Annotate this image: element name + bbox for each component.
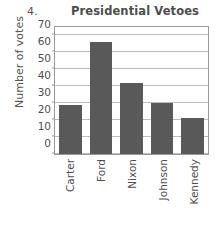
bar-series (55, 27, 208, 154)
plot-inner: 010203040506070 (55, 27, 208, 154)
y-tick-label: 50 (38, 53, 51, 64)
x-tick-slot: Carter (54, 155, 85, 227)
x-tick-label: Carter (64, 159, 75, 192)
y-tick-label: 70 (38, 19, 51, 30)
y-tick-label: 10 (38, 121, 51, 132)
y-tick-label: 60 (38, 36, 51, 47)
bar (181, 118, 204, 154)
bar (151, 103, 174, 154)
bar (59, 105, 82, 154)
y-tick-label: 20 (38, 104, 51, 115)
y-tick-label: 0 (44, 138, 51, 149)
x-tick-label: Kennedy (188, 159, 199, 204)
x-tick-label: Ford (95, 159, 106, 182)
x-axis-tick-labels: CarterFordNixonJohnsonKennedy (54, 155, 209, 227)
bar-slot (86, 27, 117, 154)
problem-number: 4. (27, 6, 38, 18)
bar (90, 42, 113, 154)
x-tick-slot: Kennedy (178, 155, 209, 227)
x-tick-slot: Ford (85, 155, 116, 227)
x-tick-label: Johnson (157, 159, 168, 200)
x-tick-slot: Johnson (147, 155, 178, 227)
chart-title: Presidential Vetoes (60, 5, 210, 18)
bar-slot (147, 27, 178, 154)
bar-slot (116, 27, 147, 154)
y-tick-label: 40 (38, 70, 51, 81)
bar-slot (177, 27, 208, 154)
x-tick-label: Nixon (126, 159, 137, 189)
bar-slot (55, 27, 86, 154)
bar (120, 83, 143, 154)
x-tick-slot: Nixon (116, 155, 147, 227)
y-tick-label: 30 (38, 87, 51, 98)
y-axis-title: Number of votes (14, 12, 26, 112)
plot-area: 010203040506070 (54, 26, 209, 155)
